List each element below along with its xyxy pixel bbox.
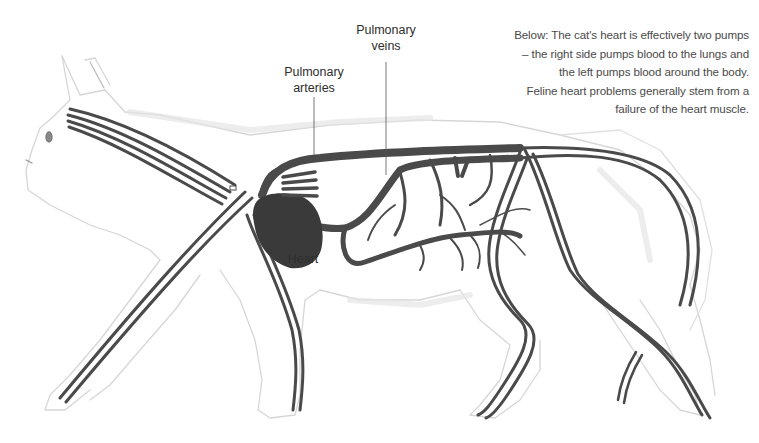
- label-pulmonary-arteries: Pulmonary arteries: [276, 64, 352, 96]
- cat-circulation-diagram: Pulmonary veins Pulmonary arteries Heart…: [0, 0, 759, 443]
- label-pulmonary-veins: Pulmonary veins: [348, 22, 424, 54]
- label-heart: Heart: [278, 251, 328, 267]
- figure-caption: Below: The cat's heart is effectively tw…: [459, 26, 749, 119]
